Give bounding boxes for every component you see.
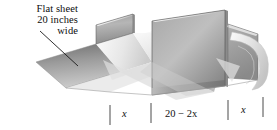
gutter-figure: Flat sheet 20 inches wide x 20 − 2x x [0, 0, 277, 130]
caption-line-1: Flat sheet [6, 3, 78, 14]
caption-line-2: 20 inches [6, 14, 78, 25]
dimension-label-right-x: x [241, 104, 246, 115]
dimension-label-base: 20 − 2x [165, 108, 197, 119]
caption-line-3: wide [6, 25, 78, 36]
flat-sheet-caption: Flat sheet 20 inches wide [6, 3, 78, 37]
dimension-label-left-x: x [122, 108, 127, 119]
